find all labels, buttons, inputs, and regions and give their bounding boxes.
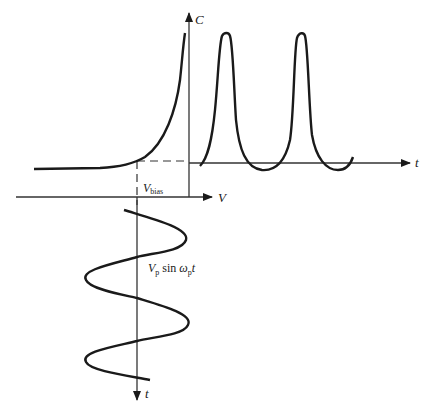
capacitance-axis-label: C [195,12,204,27]
varactor-pumping-diagram: C V t t Vbias Vp sin ωpt [0,0,430,410]
time-axis-right-label: t [415,155,419,170]
time-axis-down-label: t [145,386,149,401]
bias-voltage-label: Vbias [143,181,163,196]
capacitance-time-curve [200,33,353,170]
voltage-axis-label: V [218,190,228,205]
cv-curve [34,33,185,169]
pump-voltage-label: Vp sin ωpt [148,261,196,277]
